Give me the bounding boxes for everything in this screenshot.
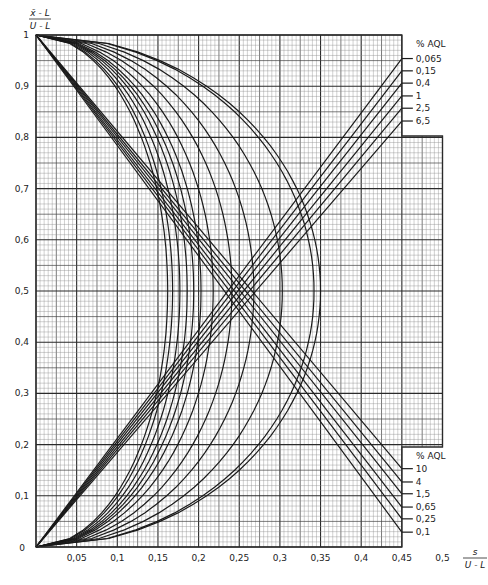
y-tick-label: 0,4 [15, 337, 30, 347]
y-tick-label: 0,8 [15, 132, 30, 142]
x-tick-label: 0,35 [311, 553, 331, 563]
x-axis-label: s U - L [463, 547, 487, 570]
x-axis-label-numerator: s [473, 547, 478, 557]
origin-label: 0 [19, 543, 25, 553]
legend-lower-aql: % AQL1041,50,650,250,1 [402, 451, 446, 537]
legend-entry-label: 4 [416, 477, 422, 487]
legend-entry-label: 0,1 [416, 527, 430, 537]
y-tick-label: 0,9 [15, 81, 30, 91]
x-tick-label: 0,15 [148, 553, 168, 563]
legend-entry-label: 6,5 [416, 116, 430, 126]
legend-entry-label: 2,5 [416, 103, 430, 113]
y-tick-label: 0,6 [15, 235, 30, 245]
y-tick-label: 0,2 [15, 440, 29, 450]
legend-entry-label: 0,4 [416, 78, 431, 88]
legend-entry-label: 0,15 [416, 66, 436, 76]
y-axis-label: x̄ - L U - L [29, 8, 51, 31]
y-axis-ticks: 0,10,20,30,40,50,60,70,80,91 [15, 30, 30, 501]
legend-title: % AQL [416, 451, 446, 461]
y-tick-label: 1 [23, 30, 29, 40]
legend-entry-label: 0,25 [416, 514, 436, 524]
y-tick-label: 0,1 [15, 491, 29, 501]
legend-entry-label: 10 [416, 464, 428, 474]
y-tick-label: 0,3 [15, 388, 29, 398]
x-tick-label: 0,05 [67, 553, 87, 563]
legend-title: % AQL [416, 39, 446, 49]
y-tick-label: 0,7 [15, 184, 29, 194]
y-tick-label: 0,5 [15, 286, 29, 296]
y-axis-label-numerator: x̄ - L [29, 8, 49, 18]
legend-entry-label: 0,65 [416, 502, 436, 512]
x-tick-label: 0,4 [354, 553, 369, 563]
x-axis-label-denominator: U - L [465, 560, 486, 570]
x-tick-label: 0,25 [229, 553, 249, 563]
legend-entry-label: 1 [416, 91, 422, 101]
x-tick-label: 0,1 [110, 553, 124, 563]
x-tick-label: 0,45 [392, 553, 412, 563]
x-tick-label: 0,2 [191, 553, 205, 563]
x-tick-label: 0,5 [435, 553, 449, 563]
legend-entry-label: 1,5 [416, 489, 430, 499]
aql-acceptance-chart: 0,10,20,30,40,50,60,70,80,91 0,050,10,15… [0, 0, 488, 585]
legend-upper-aql: % AQL0,0650,150,412,56,5 [402, 39, 446, 126]
x-axis-ticks: 0,050,10,150,20,250,30,350,40,450,5 [67, 553, 450, 563]
y-axis-label-denominator: U - L [30, 21, 51, 31]
legend-entry-label: 0,065 [416, 54, 442, 64]
x-tick-label: 0,3 [273, 553, 287, 563]
